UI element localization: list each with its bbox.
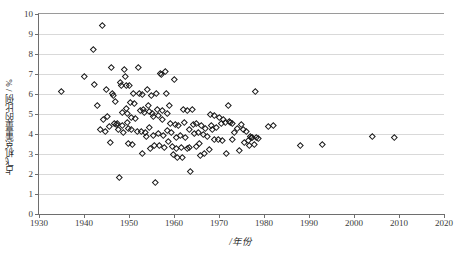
y-tick-label: 2 (29, 170, 34, 179)
x-tick-label: 1950 (120, 219, 138, 228)
x-tick-label: 1990 (300, 219, 318, 228)
y-tick-label: 5 (29, 110, 34, 119)
data-point (187, 144, 193, 150)
data-point (99, 22, 105, 28)
data-point (144, 86, 150, 92)
data-point (133, 115, 139, 121)
data-point (164, 110, 170, 116)
data-point (152, 179, 158, 185)
data-point (319, 141, 325, 147)
x-tick-label: 1940 (75, 219, 93, 228)
chart-page: 占飞机总重量的比例 / % 012345678910 1930194019501… (0, 0, 465, 254)
y-tick-mark (35, 94, 39, 95)
data-point (297, 142, 303, 148)
x-tick-label: 2010 (390, 219, 408, 228)
y-tick-mark (35, 34, 39, 35)
data-point (112, 98, 118, 104)
data-point (206, 146, 212, 152)
x-axis-title: /年份 (38, 234, 443, 248)
data-point (129, 141, 135, 147)
data-point (145, 102, 151, 108)
x-tick-label: 1960 (165, 219, 183, 228)
data-point (171, 76, 177, 82)
data-point (178, 144, 184, 150)
y-tick-mark (35, 54, 39, 55)
data-point (108, 64, 114, 70)
gridline (39, 194, 444, 195)
y-tick-label: 6 (29, 90, 34, 99)
data-point (107, 139, 113, 145)
data-point (116, 174, 122, 180)
data-point (146, 124, 152, 130)
y-tick-label: 7 (29, 70, 34, 79)
gridline (39, 54, 444, 55)
data-point (270, 122, 276, 128)
gridline (39, 154, 444, 155)
y-tick-mark (35, 114, 39, 115)
data-point (160, 116, 166, 122)
data-point (225, 102, 231, 108)
y-tick-mark (35, 14, 39, 15)
y-tick-label: 9 (29, 30, 34, 39)
x-tick-label: 2000 (345, 219, 363, 228)
y-tick-mark (35, 174, 39, 175)
data-point (131, 100, 137, 106)
gridline (39, 174, 444, 175)
data-point (229, 120, 235, 126)
data-point (223, 150, 229, 156)
gridline (39, 94, 444, 95)
y-axis-title: 占飞机总重量的比例 / % (2, 79, 15, 175)
data-point (251, 141, 257, 147)
data-point (139, 150, 145, 156)
x-tick-label: 1980 (255, 219, 273, 228)
y-tick-label: 3 (29, 150, 34, 159)
data-point (94, 102, 100, 108)
gridline (39, 74, 444, 75)
x-tick-label: 1930 (30, 219, 48, 228)
data-point (182, 134, 188, 140)
gridline (39, 114, 444, 115)
data-point (91, 81, 97, 87)
data-point (135, 64, 141, 70)
y-tick-mark (35, 154, 39, 155)
data-point (189, 106, 195, 112)
data-point (81, 73, 87, 79)
gridline (39, 134, 444, 135)
y-tick-label: 4 (29, 130, 34, 139)
plot-area: 012345678910 193019401950196019701980199… (38, 13, 444, 215)
y-tick-label: 8 (29, 50, 34, 59)
data-point (166, 102, 172, 108)
data-point (186, 126, 192, 132)
y-tick-label: 10 (24, 10, 33, 19)
gridline (39, 34, 444, 35)
data-point (121, 66, 127, 72)
x-tick-label: 2020 (435, 219, 453, 228)
data-point (163, 90, 169, 96)
y-tick-label: 1 (29, 190, 34, 199)
y-tick-mark (35, 134, 39, 135)
data-point (219, 137, 225, 143)
y-tick-mark (35, 74, 39, 75)
data-point (229, 136, 235, 142)
data-point (90, 46, 96, 52)
x-tick-label: 1970 (210, 219, 228, 228)
data-point (181, 119, 187, 125)
data-point (139, 91, 145, 97)
data-point (236, 147, 242, 153)
y-tick-mark (35, 194, 39, 195)
data-point (161, 144, 167, 150)
